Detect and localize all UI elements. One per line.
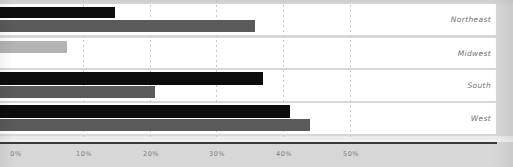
x-tick-label-30: 30% [209,150,225,158]
x-tick-label-50: 50% [343,150,359,158]
bar-northeast-series-2 [0,20,255,32]
x-tick-label-10: 10% [76,150,92,158]
category-label-northeast: Northeast [451,15,491,24]
plot-area: Northeast Midwest South West [0,0,513,140]
bar-northeast-series-1 [0,7,115,18]
x-tick-label-40: 40% [276,150,292,158]
category-band-midwest [0,38,496,68]
x-tick-label-20: 20% [143,150,159,158]
x-tick-label-0: 0% [10,150,21,158]
bar-west-series-2 [0,119,310,131]
category-label-midwest: Midwest [458,49,491,58]
bar-chart: Northeast Midwest South West 0% 10% 20% … [0,0,513,167]
bar-south-series-2 [0,86,155,98]
bar-west-series-1 [0,105,290,118]
bar-midwest-series-2 [0,41,67,53]
x-axis-line [0,142,497,144]
category-label-west: West [471,114,491,123]
bar-south-series-1 [0,72,263,85]
category-label-south: South [467,81,491,90]
